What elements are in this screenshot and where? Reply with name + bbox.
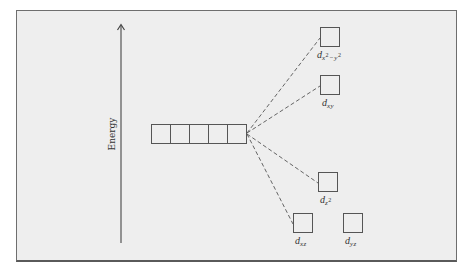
- correlation-lines: [247, 38, 320, 224]
- correlation-line-dx2-y2: [247, 38, 320, 133]
- energy-axis-label: Energy: [107, 118, 117, 151]
- correlation-line-dxz: [247, 134, 293, 224]
- diagram-canvas: Energy dx2−y2 dxy dz2 dxz dyz: [0, 0, 466, 275]
- orbital-label-sup: 2: [328, 197, 332, 203]
- orbital-box-dyz: [344, 214, 363, 233]
- orbital-label-sub: xy: [327, 102, 334, 110]
- degenerate-orbital-box: [209, 125, 228, 144]
- orbital-box-dx2-y2: [321, 28, 340, 47]
- orbital-box-dxy: [321, 76, 340, 95]
- degenerate-orbital-set: [152, 125, 247, 144]
- orbital-label-sub: yz: [350, 240, 357, 248]
- orbital-label-dxz: dxz: [295, 236, 307, 248]
- orbital-box-dxz: [294, 214, 313, 233]
- orbital-label-dyz: dyz: [345, 236, 357, 248]
- splitting-diagram: [0, 0, 466, 275]
- correlation-line-dxy: [247, 86, 320, 133]
- orbital-label-sub: xz: [300, 240, 307, 248]
- energy-axis: [118, 25, 125, 244]
- orbital-box-dz2: [319, 173, 338, 192]
- orbital-label-sup: 2: [338, 52, 342, 58]
- orbital-label-dz2: dz2: [320, 195, 332, 207]
- orbital-label-sub: −y: [329, 54, 338, 62]
- degenerate-orbital-box: [190, 125, 209, 144]
- degenerate-orbital-box: [152, 125, 171, 144]
- correlation-line-dz2: [247, 134, 318, 183]
- orbital-label-dx2-y2: dx2−y2: [317, 50, 341, 62]
- degenerate-orbital-box: [228, 125, 247, 144]
- orbital-label-dxy: dxy: [322, 98, 334, 110]
- degenerate-orbital-box: [171, 125, 190, 144]
